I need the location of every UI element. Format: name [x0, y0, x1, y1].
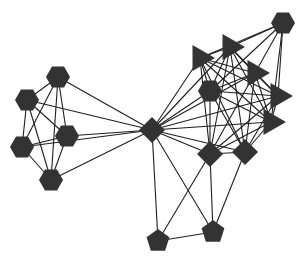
edge-L-P2 [213, 152, 245, 232]
hexagon-node-E [39, 170, 63, 191]
triangle-node-T5 [264, 109, 287, 135]
edge-B-E [27, 100, 51, 180]
edge-F-H [152, 91, 210, 130]
diamond-node-L [232, 139, 258, 165]
edge-F-P2 [152, 130, 213, 232]
pentagon-node-P2 [202, 220, 225, 242]
edge-F-P1 [152, 130, 158, 241]
hexagon-node-D [10, 137, 34, 158]
edge-D-F [22, 130, 152, 147]
hexagon-node-A [46, 67, 70, 88]
edge-B-F [27, 100, 152, 130]
network-diagram [0, 0, 307, 265]
network-graph-canvas [0, 0, 307, 265]
pentagon-node-P1 [147, 229, 170, 251]
edge-F-T5 [152, 122, 271, 130]
triangle-node-T2 [223, 34, 246, 60]
edge-T1-K [200, 58, 210, 154]
triangle-node-T4 [271, 83, 294, 109]
diamond-node-K [197, 141, 223, 167]
edge-A-F [58, 77, 152, 130]
triangle-node-T3 [248, 60, 271, 86]
